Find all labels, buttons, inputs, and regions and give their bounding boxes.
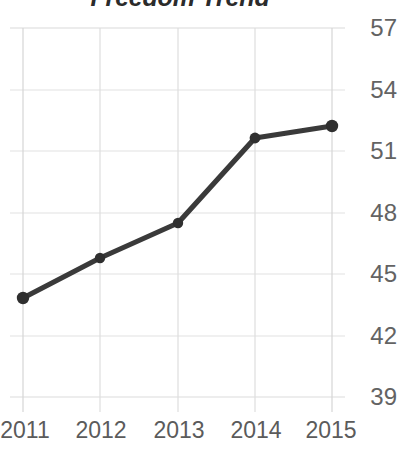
data-point-2011[interactable] (17, 292, 29, 304)
line-chart: Freedom Trend (0, 0, 401, 453)
data-point-2015[interactable] (326, 120, 338, 132)
data-point-2014[interactable] (250, 133, 261, 144)
y-axis-tick-42: 42 (345, 324, 397, 348)
plot-area (0, 0, 360, 415)
y-axis-tick-54: 54 (345, 78, 397, 102)
y-axis-tick-39: 39 (345, 385, 397, 409)
data-point-2013[interactable] (173, 218, 183, 228)
data-point-2012[interactable] (95, 253, 105, 263)
y-axis-tick-45: 45 (345, 262, 397, 286)
y-axis-tick-57: 57 (345, 16, 397, 40)
y-axis-tick-48: 48 (345, 201, 397, 225)
x-axis-tick-2015: 2015 (286, 419, 376, 442)
y-axis-tick-51: 51 (345, 139, 397, 163)
plot-svg (0, 0, 360, 415)
x-axis-tick-2012: 2012 (56, 419, 146, 442)
